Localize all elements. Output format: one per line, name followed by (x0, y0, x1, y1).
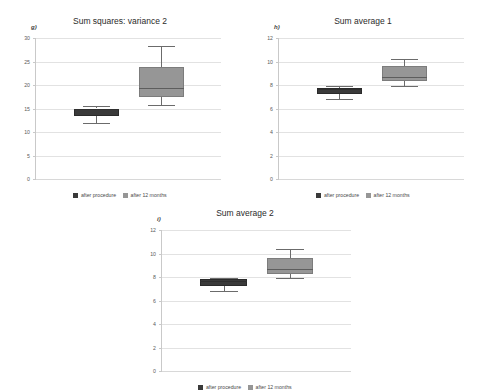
whisker-cap-upper (83, 106, 110, 107)
whisker-cap-lower (391, 86, 418, 87)
box-after-12-months (267, 258, 314, 274)
plot-area (278, 38, 464, 179)
y-axis-tick-label: 6 (141, 298, 156, 304)
legend-item: after procedure (73, 192, 116, 198)
plot-area (161, 230, 351, 371)
gridline (278, 132, 464, 133)
y-axis-tick-label: 4 (141, 321, 156, 327)
legend-swatch (248, 385, 253, 390)
gridline (278, 109, 464, 110)
gridline (278, 62, 464, 63)
median-line (267, 269, 314, 270)
legend-label: after 12 months (131, 192, 167, 198)
y-axis-tick-label: 20 (15, 82, 30, 88)
whisker-cap-lower (210, 291, 238, 292)
legend-label: after procedure (206, 384, 241, 390)
gridline (35, 109, 221, 110)
gridline (278, 156, 464, 157)
y-axis-tick-label: 10 (141, 251, 156, 257)
y-axis-tick-label: 15 (15, 106, 30, 112)
median-line (382, 77, 428, 78)
chart-legend: after procedureafter 12 months (121, 384, 369, 390)
y-axis-tick-label: 2 (141, 345, 156, 351)
legend-swatch (73, 193, 78, 198)
whisker-cap-upper (148, 46, 175, 47)
gridline (35, 38, 221, 39)
whisker-cap-upper (276, 249, 304, 250)
y-axis-tick-label: 30 (15, 35, 30, 41)
legend-label: after procedure (324, 192, 359, 198)
y-axis-tick-label: 12 (258, 35, 273, 41)
legend-swatch (198, 385, 203, 390)
y-axis-line (278, 38, 279, 180)
legend-item: after procedure (198, 384, 241, 390)
y-axis-tick-label: 10 (15, 129, 30, 135)
gridline (35, 85, 221, 86)
y-axis-line (35, 38, 36, 180)
boxplot-figure: g)Sum squares: variance 2051015202530aft… (0, 0, 484, 390)
legend-label: after 12 months (374, 192, 410, 198)
y-axis-line (161, 230, 162, 372)
legend-swatch (316, 193, 321, 198)
median-line (317, 89, 363, 90)
whisker-cap-lower (148, 105, 175, 106)
chart-panel-sum-average-1: h)Sum average 1024681012after procedurea… (243, 8, 483, 194)
chart-title: Sum average 1 (243, 16, 483, 26)
chart-panel-sum-average-2: i)Sum average 2024681012after procedurea… (121, 200, 369, 386)
whisker-cap-lower (276, 278, 304, 279)
y-axis-tick-label: 8 (141, 274, 156, 280)
plot-area (35, 38, 221, 179)
legend-swatch (123, 193, 128, 198)
whisker-upper (161, 46, 162, 66)
chart-title: Sum average 2 (121, 208, 369, 218)
gridline (35, 179, 221, 180)
box-after-12-months (382, 66, 428, 81)
legend-item: after 12 months (366, 192, 410, 198)
y-axis-tick-label: 0 (258, 176, 273, 182)
gridline (278, 38, 464, 39)
y-axis-tick-label: 6 (258, 106, 273, 112)
gridline (35, 156, 221, 157)
chart-title: Sum squares: variance 2 (0, 16, 240, 26)
whisker-cap-upper (391, 59, 418, 60)
y-axis-tick-label: 4 (258, 129, 273, 135)
gridline (161, 230, 351, 231)
whisker-cap-lower (83, 123, 110, 124)
y-axis-tick-label: 25 (15, 59, 30, 65)
gridline (161, 277, 351, 278)
whisker-upper (290, 249, 291, 258)
whisker-lower (161, 97, 162, 105)
median-line (74, 109, 120, 110)
gridline (35, 62, 221, 63)
legend-swatch (366, 193, 371, 198)
median-line (200, 281, 247, 282)
median-line (139, 88, 185, 89)
y-axis-tick-label: 10 (258, 59, 273, 65)
y-axis-tick-label: 5 (15, 153, 30, 159)
chart-legend: after procedureafter 12 months (0, 192, 240, 198)
gridline (161, 254, 351, 255)
legend-item: after procedure (316, 192, 359, 198)
chart-legend: after procedureafter 12 months (243, 192, 483, 198)
gridline (161, 301, 351, 302)
chart-panel-sum-squares-variance-2: g)Sum squares: variance 2051015202530aft… (0, 8, 240, 194)
gridline (161, 348, 351, 349)
gridline (278, 85, 464, 86)
legend-label: after procedure (81, 192, 116, 198)
gridline (278, 179, 464, 180)
legend-item: after 12 months (123, 192, 167, 198)
legend-item: after 12 months (248, 384, 292, 390)
gridline (161, 324, 351, 325)
y-axis-tick-label: 2 (258, 153, 273, 159)
whisker-upper (404, 59, 405, 66)
gridline (35, 132, 221, 133)
box-after-12-months (139, 67, 185, 98)
y-axis-tick-label: 0 (141, 368, 156, 374)
whisker-cap-lower (326, 99, 353, 100)
y-axis-tick-label: 12 (141, 227, 156, 233)
y-axis-tick-label: 0 (15, 176, 30, 182)
y-axis-tick-label: 8 (258, 82, 273, 88)
gridline (161, 371, 351, 372)
legend-label: after 12 months (256, 384, 292, 390)
